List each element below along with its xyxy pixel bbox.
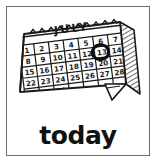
day-cell: 28 (114, 67, 125, 77)
calendar-illustration: JULY (8, 8, 148, 116)
day-cell: 1 (24, 46, 30, 56)
day-cell: 24 (55, 75, 66, 85)
day-cell: 10 (52, 53, 63, 63)
day-cell: 17 (54, 64, 65, 74)
caption-text: today (39, 123, 116, 148)
day-cell: 19 (83, 60, 94, 70)
today-pictogram-card: JULY (0, 0, 156, 162)
day-cell: 27 (99, 69, 110, 79)
day-cell: 23 (40, 76, 51, 86)
day-cell: 29 (27, 89, 38, 99)
calendar-svg: JULY (8, 8, 148, 116)
day-cell: 26 (84, 71, 95, 81)
day-cell: 30 (42, 87, 53, 97)
day-cell: 14 (111, 45, 122, 55)
day-cell: 22 (25, 78, 36, 88)
page-curl-icon (105, 84, 126, 100)
day-cell: 8 (25, 57, 31, 67)
day-cell: 16 (39, 65, 50, 75)
day-cell: 18 (68, 62, 79, 72)
day-cell: 31 (56, 85, 67, 95)
day-cell: 25 (70, 73, 81, 83)
caption-area: today (8, 116, 148, 154)
day-cell: 5 (83, 38, 89, 48)
day-cell: 11 (67, 51, 78, 61)
day-cell: 15 (24, 67, 35, 77)
day-cell: 21 (113, 56, 124, 66)
